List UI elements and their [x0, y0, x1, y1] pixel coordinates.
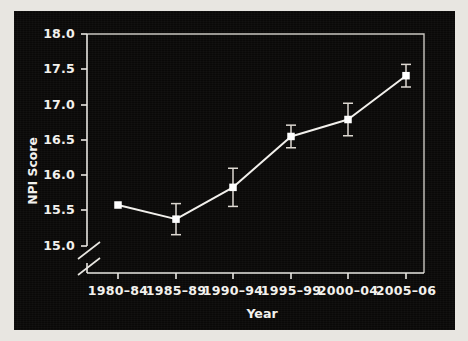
x-tick-marks	[118, 273, 406, 279]
x-tick-label-1985-89: 1985–89	[146, 283, 206, 298]
y-tick-label-17-0: 17.0	[43, 97, 75, 112]
y-tick-label-16-5: 16.5	[43, 132, 75, 147]
line-chart-svg: 18.0 17.5 17.0 16.5 16.0 15.5 15.0 NPI S…	[14, 11, 455, 330]
y-tick-label-16-0: 16.0	[43, 167, 75, 182]
error-bars-group	[171, 64, 411, 234]
data-markers-group	[114, 72, 410, 223]
y-tick-label-15-5: 15.5	[43, 202, 75, 217]
y-tick-label-18-0: 18.0	[43, 26, 75, 41]
chart-plot-area: 18.0 17.5 17.0 16.5 16.0 15.5 15.0 NPI S…	[14, 11, 455, 330]
data-point-1985–89	[172, 215, 180, 223]
data-point-1980–84	[114, 201, 122, 209]
figure-panel: 18.0 17.5 17.0 16.5 16.0 15.5 15.0 NPI S…	[14, 11, 455, 330]
data-point-1995–99	[287, 133, 295, 141]
x-tick-label-1980-84: 1980–84	[88, 283, 148, 298]
data-point-1990–94	[229, 184, 237, 192]
x-axis-title: Year	[245, 306, 278, 321]
x-tick-label-2005-06: 2005–06	[376, 283, 436, 298]
y-tick-label-17-5: 17.5	[43, 61, 75, 76]
x-tick-label-1990-94: 1990–94	[203, 283, 263, 298]
y-axis-title: NPI Score	[25, 137, 40, 205]
data-point-2000–04	[344, 116, 352, 124]
x-tick-label-2000-04: 2000–04	[318, 283, 378, 298]
axis-break-slash-upper	[78, 242, 100, 259]
data-point-2005–06	[402, 72, 410, 80]
y-tick-marks	[81, 34, 87, 246]
y-tick-label-15-0: 15.0	[43, 238, 75, 253]
x-tick-label-1995-99: 1995–99	[261, 283, 321, 298]
plot-frame	[87, 34, 424, 273]
series-line-npi-score	[118, 76, 406, 219]
